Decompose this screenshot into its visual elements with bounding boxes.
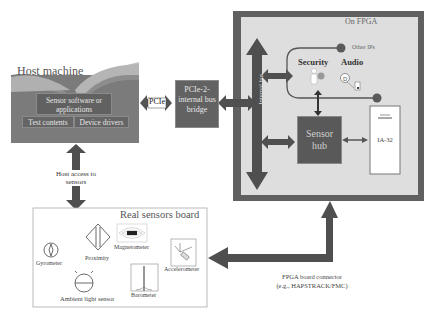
host-access-line1: Host access to (56, 170, 96, 178)
accelerometer-icon (171, 239, 196, 266)
gyrometer-label: Gyrometer (36, 260, 62, 266)
ambient-light-label: Ambient light sensor (60, 295, 115, 302)
connector-line1: FPGA board connector (282, 273, 342, 280)
sensors-board-title: Real sensors board (120, 209, 199, 220)
sensor-hub-box: Sensor hub (297, 116, 342, 164)
ia32-label: IA-32 (370, 136, 400, 143)
security-label: Security (298, 57, 328, 67)
ring-node (373, 94, 382, 103)
connector-label: FPGA board connector (e.g., HAPSTRACK/FM… (262, 272, 362, 290)
proximity-label: Proximity (85, 255, 109, 261)
barometer-icon (131, 264, 158, 291)
other-ips-label: Other IPs (352, 44, 375, 50)
pcie-label: PCIe (148, 97, 166, 106)
host-machine-title: Host machine (17, 64, 83, 79)
host-access-line2: sensors (66, 178, 87, 186)
audio-label: Audio (341, 57, 363, 67)
device-drivers-box: Device drivers (74, 116, 129, 128)
other-ips-node (337, 44, 346, 53)
barometer-label: Barometer (131, 292, 156, 298)
svg-text:D: D (343, 76, 348, 82)
connector-line2: (e.g., HAPSTRACK/FMC) (276, 282, 347, 289)
host-access-label: Host access to sensors (50, 170, 102, 186)
fpga-connector-arrow (208, 201, 338, 269)
test-contents-box: Test contents (22, 116, 74, 128)
sensor-software-box: Sensor software or applications (36, 93, 112, 115)
accelerometer-label: Accelerometer (164, 266, 199, 272)
pcie-bridge-box: PCIe-2-internal bus bridge (175, 80, 219, 128)
fpga-title: On FPGA (345, 17, 377, 26)
magnetometer-icon (117, 224, 147, 242)
internal-bus-label: Internal bus (257, 64, 264, 114)
magnetometer-label: Magnetometer (114, 244, 149, 250)
